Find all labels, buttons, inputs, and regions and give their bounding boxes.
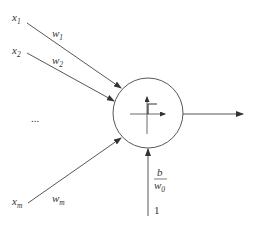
input-label-x1: x1: [11, 11, 21, 26]
input-label-xm: xm: [11, 195, 23, 210]
bias-input: b w0 1: [148, 149, 167, 216]
input-label-x2: x2: [11, 44, 21, 59]
weight-label-wm: wm: [52, 192, 65, 207]
bias-numerator: b: [157, 166, 163, 178]
input-arrow-xm: [28, 138, 121, 203]
bias-input-value: 1: [154, 204, 160, 216]
neuron: [113, 78, 183, 148]
perceptron-diagram: x1 w1 x2 w2 ... xm wm b w0 1: [0, 0, 259, 225]
weight-label-w1: w1: [52, 27, 63, 42]
weight-label-w2: w2: [52, 54, 63, 69]
bias-denominator: w0: [154, 179, 165, 194]
ellipsis: ...: [31, 112, 40, 124]
input-arrow-x2: [27, 53, 114, 101]
input-xm: xm wm: [11, 138, 121, 210]
input-x1: x1 w1: [11, 11, 121, 88]
step-function-icon: [130, 97, 165, 134]
input-arrow-x1: [27, 23, 121, 88]
